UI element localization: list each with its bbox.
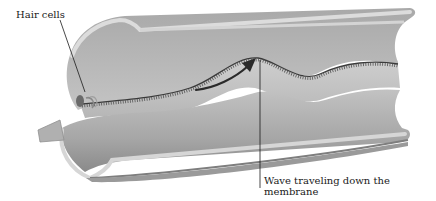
hair-cells-label: Hair cells [16, 9, 65, 20]
wave-label: Wave traveling down the membrane [264, 175, 434, 197]
wave-label-line1: Wave traveling down the [264, 175, 434, 186]
round-window-flap [38, 120, 64, 142]
cochlea-illustration [0, 0, 436, 201]
cochlea-diagram: Hair cells Wave traveling down the membr… [0, 0, 436, 201]
wave-label-line2: membrane [264, 186, 434, 197]
